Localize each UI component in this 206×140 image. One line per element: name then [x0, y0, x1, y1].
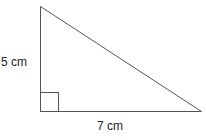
height-label: 5 cm: [1, 56, 27, 68]
right-angle-marker: [41, 93, 59, 112]
right-triangle: [41, 7, 202, 112]
base-label: 7 cm: [97, 120, 123, 132]
